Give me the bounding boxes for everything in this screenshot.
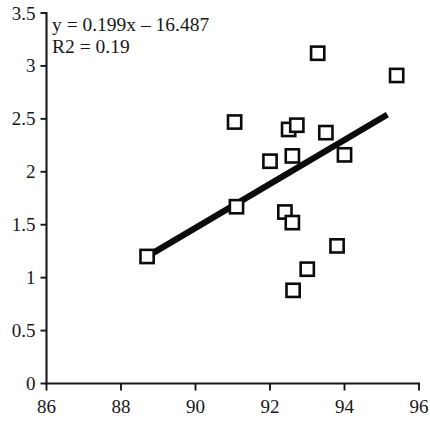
y-tick-label: 0.5 [12, 320, 36, 341]
scatter-chart: y = 0.199x – 16.487 R2 = 0.19 00.511.522… [0, 0, 430, 422]
x-axis-tick-labels: 868890929496 [37, 396, 429, 417]
x-tick-label: 88 [112, 396, 131, 417]
y-tick-label: 0 [26, 373, 36, 394]
data-point-marker [228, 115, 241, 128]
data-point-marker [390, 69, 403, 82]
annotation-group: y = 0.199x – 16.487 R2 = 0.19 [52, 14, 209, 57]
chart-canvas: y = 0.199x – 16.487 R2 = 0.19 00.511.522… [0, 0, 430, 422]
x-tick-label: 90 [186, 396, 205, 417]
x-tick-label: 86 [37, 396, 56, 417]
data-point-marker [301, 263, 314, 276]
data-point-marker [230, 200, 243, 213]
data-point-marker [311, 47, 324, 60]
data-point-marker [286, 284, 299, 297]
data-point-marker [286, 149, 299, 162]
y-tick-label: 1.5 [12, 214, 36, 235]
y-tick-label: 2.5 [12, 108, 36, 129]
data-point-marker [319, 126, 332, 139]
data-point-marker [263, 155, 276, 168]
data-point-marker [290, 119, 303, 132]
y-tick-label: 2 [26, 161, 36, 182]
data-points-group [140, 47, 403, 297]
data-point-marker [330, 239, 343, 252]
x-tick-label: 96 [410, 396, 429, 417]
x-tick-label: 92 [261, 396, 280, 417]
y-tick-label: 3 [26, 55, 36, 76]
y-axis-tick-labels: 00.511.522.533.5 [12, 3, 36, 395]
trend-line [147, 115, 387, 257]
r-squared-label: R2 = 0.19 [52, 36, 130, 57]
y-tick-label: 3.5 [12, 3, 36, 24]
trend-line-group [147, 115, 387, 257]
data-point-marker [286, 216, 299, 229]
regression-equation-label: y = 0.199x – 16.487 [52, 14, 209, 35]
x-tick-label: 94 [335, 396, 355, 417]
y-tick-label: 1 [26, 267, 36, 288]
data-point-marker [140, 250, 153, 263]
data-point-marker [338, 148, 351, 161]
